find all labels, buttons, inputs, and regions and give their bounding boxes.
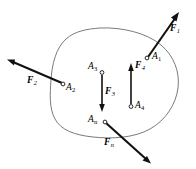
application-point-A2 bbox=[61, 82, 65, 86]
application-point-A4 bbox=[129, 105, 133, 109]
point-label-An: An bbox=[88, 115, 97, 125]
application-point-An bbox=[103, 120, 107, 124]
arrow-head-F1 bbox=[171, 12, 179, 22]
application-point-A1 bbox=[145, 56, 149, 60]
force-label-F3: F3 bbox=[105, 87, 115, 97]
force-label-F1: F1 bbox=[170, 24, 180, 34]
point-label-A3: A3 bbox=[88, 62, 97, 72]
arrow-head-F4 bbox=[128, 63, 134, 71]
arrow-head-F3 bbox=[99, 104, 105, 112]
force-shaft-F2 bbox=[13, 62, 62, 83]
force-label-F4: F4 bbox=[135, 61, 145, 71]
point-label-A2: A2 bbox=[66, 83, 75, 93]
force-label-Fn: Fn bbox=[104, 138, 114, 148]
application-point-A3 bbox=[100, 71, 104, 75]
force-diagram-figure: F1 F2 F3 F4 Fn A1 A2 A3 A4 An bbox=[0, 0, 196, 169]
force-vector-F4 bbox=[128, 63, 134, 108]
arrow-head-F2 bbox=[7, 60, 15, 66]
point-label-A1: A1 bbox=[152, 52, 161, 62]
point-label-A4: A4 bbox=[135, 101, 144, 111]
force-vector-F1 bbox=[145, 12, 179, 60]
force-vector-F3 bbox=[99, 71, 105, 112]
force-label-F2: F2 bbox=[27, 76, 37, 86]
